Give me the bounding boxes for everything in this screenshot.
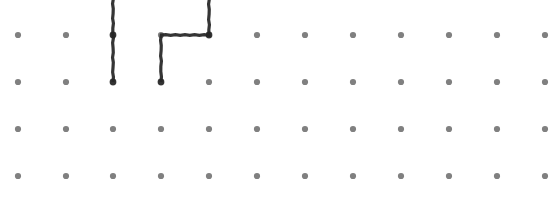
hook-path-column-5-to-column-4[interactable] xyxy=(161,0,210,82)
grid-dot-r1-c7[interactable] xyxy=(302,32,308,38)
endpoint-stroke-2 xyxy=(158,79,165,86)
grid-dots-layer xyxy=(15,32,548,218)
grid-dot-r3-c8[interactable] xyxy=(350,126,356,132)
grid-dot-r3-c7[interactable] xyxy=(302,126,308,132)
grid-dot-r4-c8[interactable] xyxy=(350,173,356,179)
grid-dot-r3-c11[interactable] xyxy=(494,126,500,132)
grid-dot-r2-c11[interactable] xyxy=(494,79,500,85)
grid-dot-r2-c12[interactable] xyxy=(542,79,548,85)
grid-dot-r4-c9[interactable] xyxy=(398,173,404,179)
grid-dot-r3-c6[interactable] xyxy=(254,126,260,132)
grid-dot-r1-c9[interactable] xyxy=(398,32,404,38)
grid-dot-r3-c4[interactable] xyxy=(158,126,164,132)
grid-dot-r3-c5[interactable] xyxy=(206,126,212,132)
ink-strokes-layer[interactable] xyxy=(113,0,210,82)
grid-dot-r4-c5[interactable] xyxy=(206,173,212,179)
endpoint-stroke-1 xyxy=(110,79,117,86)
grid-dot-r1-c11[interactable] xyxy=(494,32,500,38)
grid-dot-r4-c2[interactable] xyxy=(63,173,69,179)
junction-stroke-1 xyxy=(110,32,117,39)
grid-dot-r3-c2[interactable] xyxy=(63,126,69,132)
grid-dot-r2-c8[interactable] xyxy=(350,79,356,85)
grid-dot-r4-c10[interactable] xyxy=(446,173,452,179)
grid-dot-r4-c6[interactable] xyxy=(254,173,260,179)
grid-dot-r2-c10[interactable] xyxy=(446,79,452,85)
grid-dot-r4-c3[interactable] xyxy=(110,173,116,179)
grid-dot-r1-c12[interactable] xyxy=(542,32,548,38)
grid-dot-r4-c1[interactable] xyxy=(15,173,21,179)
grid-dot-r3-c1[interactable] xyxy=(15,126,21,132)
grid-dot-r1-c8[interactable] xyxy=(350,32,356,38)
grid-dot-r1-c1[interactable] xyxy=(15,32,21,38)
grid-dot-r1-c10[interactable] xyxy=(446,32,452,38)
grid-dot-r1-c2[interactable] xyxy=(63,32,69,38)
grid-dot-r2-c1[interactable] xyxy=(15,79,21,85)
vertical-line-column-3[interactable] xyxy=(113,0,114,82)
grid-dot-r3-c3[interactable] xyxy=(110,126,116,132)
corner-stroke-2 xyxy=(206,32,213,39)
grid-dot-r3-c10[interactable] xyxy=(446,126,452,132)
grid-dot-r2-c5[interactable] xyxy=(206,79,212,85)
grid-dot-r4-c4[interactable] xyxy=(158,173,164,179)
dot-grid-drawing-canvas[interactable] xyxy=(0,0,559,218)
grid-dot-r3-c12[interactable] xyxy=(542,126,548,132)
grid-dot-r4-c7[interactable] xyxy=(302,173,308,179)
grid-and-ink-surface[interactable] xyxy=(0,0,559,218)
grid-dot-r2-c2[interactable] xyxy=(63,79,69,85)
grid-dot-r2-c6[interactable] xyxy=(254,79,260,85)
grid-dot-r2-c9[interactable] xyxy=(398,79,404,85)
grid-dot-r2-c7[interactable] xyxy=(302,79,308,85)
grid-dot-r4-c11[interactable] xyxy=(494,173,500,179)
grid-dot-r4-c12[interactable] xyxy=(542,173,548,179)
grid-dot-r1-c6[interactable] xyxy=(254,32,260,38)
grid-dot-r3-c9[interactable] xyxy=(398,126,404,132)
